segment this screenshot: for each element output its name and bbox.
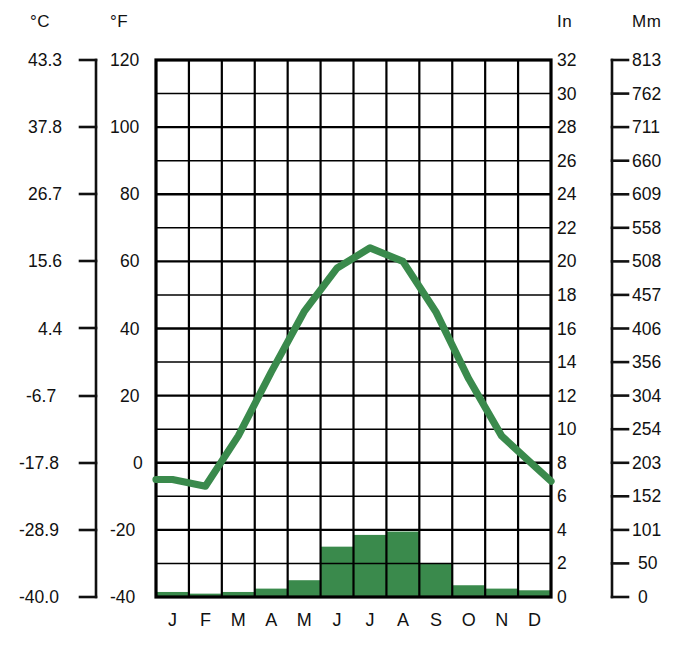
plot-area	[0, 0, 679, 654]
precip-bar	[452, 585, 485, 597]
month-label-mar: M	[222, 611, 255, 629]
month-label-jul: J	[354, 611, 387, 629]
month-label-aug: A	[387, 611, 420, 629]
month-label-apr: A	[255, 611, 288, 629]
precip-bar	[386, 532, 419, 597]
precip-bar	[354, 535, 387, 597]
month-label-nov: N	[485, 611, 518, 629]
month-label-dec: D	[518, 611, 551, 629]
precip-bar	[288, 580, 321, 597]
month-label-sep: S	[419, 611, 452, 629]
month-label-feb: F	[189, 611, 222, 629]
month-label-jan: J	[156, 611, 189, 629]
month-label-oct: O	[452, 611, 485, 629]
precip-bar	[321, 547, 354, 597]
climograph-figure: °C 43.3 37.8 26.7 15.6 4.4 -6.7 -17.8 -2…	[0, 0, 679, 654]
month-label-may: M	[288, 611, 321, 629]
month-label-jun: J	[321, 611, 354, 629]
precip-bar	[419, 563, 452, 597]
millimeters-axis	[612, 60, 628, 597]
celsius-axis	[80, 60, 96, 597]
